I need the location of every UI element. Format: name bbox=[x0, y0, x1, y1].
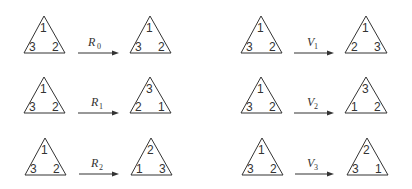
transform-subscript: 0 bbox=[97, 42, 101, 51]
vertex-top-label: 1 bbox=[40, 21, 47, 35]
vertex-top-label: 1 bbox=[146, 21, 153, 35]
vertex-left-label: 2 bbox=[351, 40, 358, 54]
vertex-top-label: 1 bbox=[41, 143, 48, 157]
vertex-right-label: 2 bbox=[270, 162, 277, 176]
arrow: V 1 bbox=[294, 35, 334, 56]
arrow: R 0 bbox=[78, 35, 119, 56]
triangle-before: 1 3 2 bbox=[242, 138, 283, 176]
triangle-before: 1 3 2 bbox=[24, 16, 65, 54]
arrow: V 2 bbox=[294, 95, 334, 116]
vertex-top-label: 2 bbox=[147, 143, 154, 157]
transform-subscript: 3 bbox=[314, 163, 318, 172]
vertex-right-label: 2 bbox=[53, 162, 60, 176]
vertex-left-label: 3 bbox=[246, 40, 253, 54]
transform-subscript: 1 bbox=[314, 42, 318, 51]
vertex-top-label: 1 bbox=[257, 21, 264, 35]
vertex-right-label: 2 bbox=[52, 40, 59, 54]
vertex-top-label: 1 bbox=[362, 21, 369, 35]
vertex-left-label: 3 bbox=[29, 40, 36, 54]
transform-label: R bbox=[90, 95, 99, 109]
vertex-left-label: 3 bbox=[352, 162, 359, 176]
arrow: R 2 bbox=[79, 156, 119, 177]
transformation-v2: 1 3 2 V 2 3 1 2 bbox=[241, 77, 387, 116]
triangle-before: 1 3 2 bbox=[241, 77, 282, 114]
triangle-before: 1 3 2 bbox=[25, 138, 66, 176]
vertex-top-label: 3 bbox=[362, 82, 369, 96]
transformation-r2: 1 3 2 R 2 2 1 3 bbox=[25, 138, 172, 177]
triangle-after: 3 1 2 bbox=[345, 77, 387, 114]
vertex-right-label: 2 bbox=[269, 40, 276, 54]
vertex-top-label: 3 bbox=[146, 82, 153, 96]
vertex-left-label: 1 bbox=[136, 162, 143, 176]
triangle-before: 1 3 2 bbox=[241, 16, 282, 54]
vertex-right-label: 1 bbox=[375, 162, 382, 176]
vertex-left-label: 1 bbox=[351, 100, 358, 114]
vertex-left-label: 3 bbox=[30, 162, 37, 176]
vertex-left-label: 2 bbox=[135, 100, 142, 114]
vertex-right-label: 3 bbox=[374, 40, 381, 54]
vertex-left-label: 3 bbox=[246, 100, 253, 114]
transformation-v3: 1 3 2 V 3 2 3 1 bbox=[242, 138, 388, 177]
vertex-right-label: 2 bbox=[158, 40, 165, 54]
vertex-left-label: 3 bbox=[135, 40, 142, 54]
vertex-right-label: 3 bbox=[159, 162, 166, 176]
arrow: V 3 bbox=[295, 156, 334, 177]
vertex-right-label: 2 bbox=[269, 100, 276, 114]
triangle-symmetry-diagram: 1 3 2 R 0 1 3 2 1 3 2 R 1 bbox=[0, 0, 412, 189]
transform-subscript: 2 bbox=[314, 102, 318, 111]
arrow: R 1 bbox=[78, 95, 119, 116]
transformation-r1: 1 3 2 R 1 3 2 1 bbox=[24, 77, 171, 116]
triangle-after: 2 3 1 bbox=[347, 138, 388, 176]
triangle-after: 3 2 1 bbox=[130, 77, 171, 114]
transformation-v1: 1 3 2 V 1 1 2 3 bbox=[241, 16, 387, 56]
transform-label: R bbox=[87, 35, 96, 49]
transform-subscript: 2 bbox=[99, 163, 103, 172]
vertex-right-label: 2 bbox=[52, 100, 59, 114]
vertex-top-label: 2 bbox=[363, 143, 370, 157]
triangle-after: 2 1 3 bbox=[131, 138, 172, 176]
transform-label: R bbox=[90, 156, 99, 170]
vertex-top-label: 1 bbox=[40, 82, 47, 96]
vertex-left-label: 3 bbox=[247, 162, 254, 176]
triangle-after: 1 2 3 bbox=[345, 16, 387, 54]
vertex-left-label: 3 bbox=[29, 100, 36, 114]
vertex-top-label: 1 bbox=[257, 82, 264, 96]
triangle-after: 1 3 2 bbox=[130, 16, 171, 54]
transformation-r0: 1 3 2 R 0 1 3 2 bbox=[24, 16, 171, 56]
vertex-top-label: 1 bbox=[258, 143, 265, 157]
transform-subscript: 1 bbox=[99, 102, 103, 111]
vertex-right-label: 1 bbox=[158, 100, 165, 114]
vertex-right-label: 2 bbox=[374, 100, 381, 114]
triangle-before: 1 3 2 bbox=[24, 77, 65, 114]
